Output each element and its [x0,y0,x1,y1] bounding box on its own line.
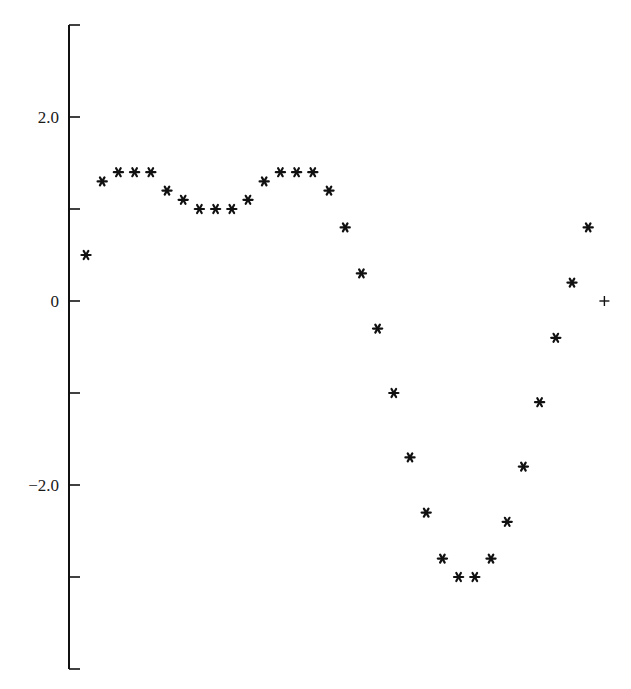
asterisk-marker [454,573,463,581]
asterisk-marker [535,398,544,406]
data-points [81,168,609,581]
asterisk-marker [341,223,350,231]
y-tick-label: −2.0 [28,476,59,495]
asterisk-marker [357,269,366,277]
asterisk-marker [373,325,382,333]
asterisk-marker [405,453,414,461]
asterisk-marker [486,555,495,563]
asterisk-marker [162,187,171,195]
asterisk-marker [276,168,285,176]
asterisk-marker [211,205,220,213]
asterisk-marker [114,168,123,176]
y-tick-label: 2.0 [38,108,59,127]
asterisk-marker [81,251,90,259]
asterisk-marker [551,334,560,342]
asterisk-marker [195,205,204,213]
asterisk-marker [422,509,431,517]
plus-marker [599,296,609,306]
asterisk-marker [584,223,593,231]
asterisk-marker [292,168,301,176]
asterisk-marker [389,389,398,397]
asterisk-marker [470,573,479,581]
asterisk-marker [503,518,512,526]
asterisk-marker [567,279,576,287]
asterisk-marker [98,177,107,185]
asterisk-marker [324,187,333,195]
asterisk-marker [308,168,317,176]
asterisk-marker [243,196,252,204]
asterisk-marker [260,177,269,185]
asterisk-marker [227,205,236,213]
asterisk-marker [179,196,188,204]
y-axis-tick-labels: 2.00−2.0 [28,108,59,495]
asterisk-marker [438,555,447,563]
asterisk-marker [519,463,528,471]
y-axis [69,25,80,669]
chart: 2.00−2.0 [0,0,631,689]
y-tick-label: 0 [51,292,60,311]
asterisk-marker [146,168,155,176]
asterisk-marker [130,168,139,176]
